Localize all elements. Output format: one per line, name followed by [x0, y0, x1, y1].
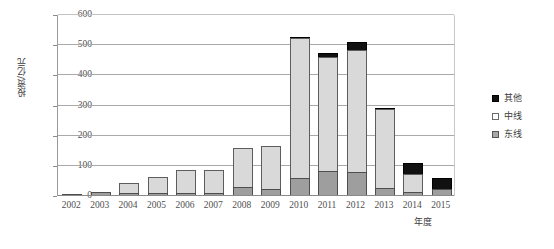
legend-item-中线[interactable]: 中线 [492, 107, 548, 125]
bar-segment-middle-2005 [148, 177, 168, 193]
gridline-500 [58, 44, 454, 45]
plot-inner [58, 15, 454, 196]
x-axis-title: 年度 [414, 215, 432, 228]
gridline-600 [58, 14, 454, 15]
bar-segment-east-2012 [347, 172, 367, 196]
x-tick-label-2012: 2012 [341, 200, 369, 211]
bar-group-2015 [432, 178, 452, 196]
bar-group-2012 [347, 42, 367, 196]
x-tick-label-2010: 2010 [284, 200, 312, 211]
bar-segment-east-2010 [290, 178, 310, 196]
x-tick-label-2013: 2013 [370, 200, 398, 211]
bar-segment-east-2011 [318, 171, 338, 196]
bar-segment-middle-2011 [318, 57, 338, 171]
bar-group-2013 [375, 108, 395, 196]
x-tick-label-2011: 2011 [313, 200, 341, 211]
stacked-bar-chart: 投资/亿元 6005004003002001000 20022003200420… [0, 0, 554, 249]
x-axis-baseline [58, 195, 454, 196]
x-tick-label-2014: 2014 [398, 200, 426, 211]
x-tick-label-2009: 2009 [256, 200, 284, 211]
bar-group-2010 [290, 37, 310, 196]
x-tick-label-2003: 2003 [85, 200, 113, 211]
bar-group-2011 [318, 53, 338, 196]
bar-group-2005 [148, 177, 168, 196]
bar-segment-middle-2012 [347, 50, 367, 174]
gridline-300 [58, 105, 454, 106]
x-tick-label-2005: 2005 [142, 200, 170, 211]
legend-item-东线[interactable]: 东线 [492, 125, 548, 143]
x-tick-label-2015: 2015 [427, 200, 455, 211]
y-tick-mark-0 [53, 196, 57, 197]
bar-segment-middle-2014 [403, 174, 423, 193]
bar-segment-middle-2013 [375, 109, 395, 190]
bar-group-2009 [261, 146, 281, 196]
y-axis-title: 投资/亿元 [16, 58, 30, 97]
bar-segment-middle-2008 [233, 148, 253, 188]
bar-group-2008 [233, 148, 253, 196]
legend-label: 中线 [504, 112, 522, 121]
legend-item-其他[interactable]: 其他 [492, 89, 548, 107]
bar-segment-middle-2009 [261, 146, 281, 189]
bar-group-2014 [403, 163, 423, 196]
gridline-400 [58, 74, 454, 75]
legend-label: 东线 [504, 130, 522, 139]
white-square-swatch [492, 113, 499, 120]
x-tick-label-2002: 2002 [57, 200, 85, 211]
gray-square-swatch [492, 131, 499, 138]
bar-segment-middle-2010 [290, 38, 310, 179]
black-square-swatch [492, 95, 499, 102]
bar-segment-middle-2007 [204, 170, 224, 194]
legend-label: 其他 [504, 94, 522, 103]
plot-area [57, 15, 455, 196]
bar-group-2007 [204, 170, 224, 196]
x-tick-label-2004: 2004 [114, 200, 142, 211]
chart-legend: 其他中线东线 [492, 89, 548, 143]
bar-group-2006 [176, 170, 196, 196]
x-tick-label-2006: 2006 [171, 200, 199, 211]
x-tick-label-2007: 2007 [199, 200, 227, 211]
bar-segment-middle-2006 [176, 170, 196, 194]
x-tick-label-2008: 2008 [228, 200, 256, 211]
